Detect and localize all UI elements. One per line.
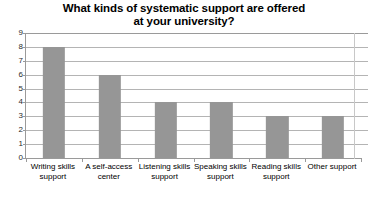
bar[interactable] (210, 102, 232, 158)
bar-slot (305, 33, 361, 158)
x-axis-tick-mark (361, 158, 362, 162)
bar[interactable] (99, 75, 121, 158)
chart-title: What kinds of systematic support are off… (0, 2, 368, 28)
bars-layer (26, 33, 361, 158)
x-axis-category-label: A self-access center (81, 162, 137, 181)
chart-title-line-1: What kinds of systematic support are off… (0, 2, 368, 15)
bar-slot (249, 33, 305, 158)
bar-slot (82, 33, 138, 158)
bar-chart-figure: What kinds of systematic support are off… (0, 0, 368, 202)
x-axis-category-label: Reading skills support (248, 162, 304, 181)
bar[interactable] (322, 116, 344, 158)
bar[interactable] (43, 47, 65, 158)
chart-title-line-2: at your university? (0, 15, 368, 28)
bar-slot (26, 33, 82, 158)
x-axis-category-label: Speaking skills support (193, 162, 249, 181)
bar-slot (194, 33, 250, 158)
bar[interactable] (154, 102, 176, 158)
bar[interactable] (266, 116, 288, 158)
x-axis-category-label: Listening skills support (137, 162, 193, 181)
bar-slot (138, 33, 194, 158)
x-axis-labels: Writing skills supportA self-access cent… (25, 162, 361, 200)
x-axis-category-label: Writing skills support (25, 162, 81, 181)
x-axis-category-label: Other support (304, 162, 360, 172)
plot-area: 0123456789 (25, 33, 361, 159)
